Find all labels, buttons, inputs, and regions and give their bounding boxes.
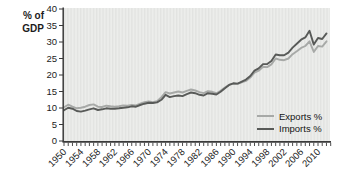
y-tick-label: 5 xyxy=(52,119,57,130)
legend-item-exports: Exports % xyxy=(257,110,322,123)
exports-legend-label: Exports % xyxy=(279,111,322,122)
y-tick-label: 20 xyxy=(46,69,57,80)
y-tick-label: 15 xyxy=(46,86,57,97)
y-tick-label: 25 xyxy=(46,53,57,64)
exports-legend-swatch xyxy=(257,115,274,117)
chart-figure: 0510152025303540195019541958196219661970… xyxy=(0,0,346,183)
legend-item-imports: Imports % xyxy=(257,123,322,136)
imports-legend-swatch xyxy=(257,128,274,130)
y-axis-label-line2: GDP xyxy=(10,23,44,36)
chart-svg: 0510152025303540195019541958196219661970… xyxy=(0,0,346,183)
y-axis-label-line1: % of xyxy=(10,10,44,23)
x-tick-label: 2010 xyxy=(300,146,323,169)
y-tick-label: 40 xyxy=(46,3,57,14)
y-tick-label: 0 xyxy=(52,135,57,146)
legend: Exports % Imports % xyxy=(257,110,322,135)
y-tick-label: 10 xyxy=(46,102,57,113)
y-tick-label: 35 xyxy=(46,20,57,31)
y-axis-label: % of GDP xyxy=(10,10,44,35)
imports-legend-label: Imports % xyxy=(279,123,322,134)
y-tick-label: 30 xyxy=(46,36,57,47)
